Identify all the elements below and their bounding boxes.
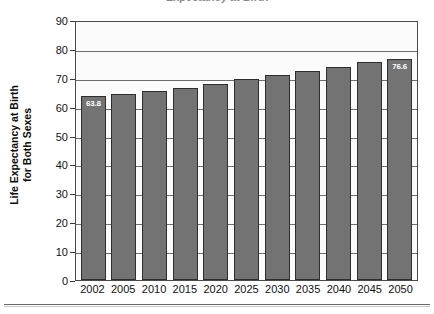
bar[interactable] <box>357 62 382 280</box>
bar-slot <box>354 22 385 280</box>
y-axis-tick-label: 20 <box>40 217 68 229</box>
plot-area: 63.876.6 <box>75 21 418 281</box>
y-axis-tick-label: 50 <box>40 131 68 143</box>
y-axis-tick <box>70 165 75 166</box>
y-axis-tick-label: 30 <box>40 188 68 200</box>
bar[interactable] <box>142 91 167 280</box>
bar-slot <box>231 22 262 280</box>
bar-value-label: 63.8 <box>86 99 101 108</box>
bar-slot <box>262 22 293 280</box>
bar[interactable] <box>203 84 228 280</box>
x-axis-tick-label: 2020 <box>200 283 231 299</box>
footer-divider <box>4 304 430 305</box>
y-axis-tick-label: 80 <box>40 44 68 56</box>
x-axis-labels: 2002200520102015202020252030203520402045… <box>75 283 418 299</box>
x-axis-tick-label: 2025 <box>231 283 262 299</box>
bar[interactable] <box>173 88 198 280</box>
y-axis-tick-label: 40 <box>40 159 68 171</box>
y-axis-tick <box>70 137 75 138</box>
y-axis-tick-label: 60 <box>40 102 68 114</box>
y-axis-tick <box>70 21 75 22</box>
bar-slot <box>170 22 201 280</box>
y-axis-tick <box>70 50 75 51</box>
bar-slot: 76.6 <box>384 22 415 280</box>
bar-slot: 63.8 <box>78 22 109 280</box>
y-axis-tick <box>70 223 75 224</box>
x-axis-tick-label: 2015 <box>169 283 200 299</box>
bar[interactable] <box>234 79 259 280</box>
x-axis-tick-label: 2010 <box>139 283 170 299</box>
y-axis-title: Life Expectancy at Birth for Both Sexes <box>8 0 36 70</box>
bar-value-label: 76.6 <box>392 62 407 71</box>
chart-title-text: Expectancy at Birth <box>0 0 434 3</box>
y-axis-tick <box>70 108 75 109</box>
y-axis-tick-label: 70 <box>40 73 68 85</box>
bar[interactable]: 76.6 <box>387 59 412 280</box>
chart-title-cutoff: Expectancy at Birth <box>0 0 434 3</box>
y-axis-tick <box>70 281 75 282</box>
bar[interactable]: 63.8 <box>81 96 106 280</box>
bars-group: 63.876.6 <box>76 22 417 280</box>
x-axis-tick-label: 2002 <box>77 283 108 299</box>
y-axis-title-line-2: for Both Sexes <box>21 70 34 220</box>
x-axis-tick-label: 2030 <box>262 283 293 299</box>
bar[interactable] <box>326 67 351 280</box>
x-axis-tick-label: 2050 <box>385 283 416 299</box>
bar-slot <box>109 22 140 280</box>
y-axis-title-line-1: Life Expectancy at Birth <box>8 70 21 220</box>
bar-slot <box>139 22 170 280</box>
bar-slot <box>323 22 354 280</box>
footer-divider-shadow <box>4 306 430 307</box>
bar-slot <box>292 22 323 280</box>
y-axis-title-text: Life Expectancy at Birth for Both Sexes <box>8 70 34 220</box>
bar[interactable] <box>265 75 290 280</box>
y-axis-tick-label: 90 <box>40 15 68 27</box>
x-axis-tick-label: 2040 <box>324 283 355 299</box>
chart-figure: Expectancy at Birth 63.876.6 90807060504… <box>0 0 434 314</box>
bar[interactable] <box>111 94 136 280</box>
x-axis-tick-label: 2045 <box>354 283 385 299</box>
bar[interactable] <box>295 71 320 280</box>
x-axis-tick-label: 2035 <box>293 283 324 299</box>
bar-slot <box>201 22 232 280</box>
y-axis-tick-label: 0 <box>40 275 68 287</box>
y-axis-tick <box>70 79 75 80</box>
y-axis-tick-label: 10 <box>40 246 68 258</box>
x-axis-tick-label: 2005 <box>108 283 139 299</box>
y-axis-tick <box>70 194 75 195</box>
y-axis-tick <box>70 252 75 253</box>
